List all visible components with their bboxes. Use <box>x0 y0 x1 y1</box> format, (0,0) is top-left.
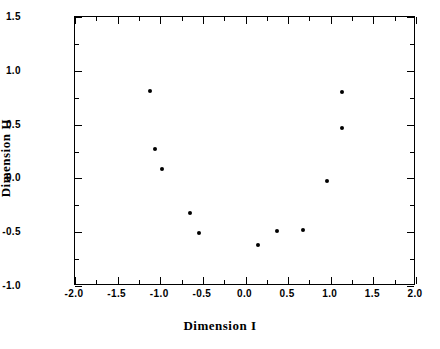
y-axis-tick-minor <box>75 44 79 45</box>
y-axis-tick-label: 0.5 <box>6 118 21 129</box>
data-point <box>160 167 164 171</box>
x-axis-tick-label: 2.0 <box>407 288 422 299</box>
x-axis-tick-minor <box>182 280 183 284</box>
x-axis-tick-minor <box>309 280 310 284</box>
y-axis-tick-label: 1.0 <box>6 64 21 75</box>
x-axis-tick-major <box>246 277 247 284</box>
x-axis-tick-major <box>75 277 76 284</box>
y-axis-tick-minor <box>75 205 79 206</box>
x-axis-tick-minor <box>224 280 225 284</box>
y-axis-title: Dimension II <box>0 119 14 198</box>
scatter-plot-figure: Dimension I Dimension II -2.0-1.5-1.0-0.… <box>0 0 440 349</box>
y-axis-tick-minor <box>410 152 414 153</box>
y-axis-tick-minor <box>410 44 414 45</box>
y-axis-tick-minor <box>410 98 414 99</box>
x-axis-tick-major <box>203 17 204 24</box>
y-axis-tick-major <box>407 232 414 233</box>
y-axis-tick-major <box>75 125 82 126</box>
x-axis-tick-major <box>331 17 332 24</box>
x-axis-tick-label: -0.5 <box>192 288 211 299</box>
y-axis-tick-major <box>75 286 82 287</box>
data-point <box>325 179 329 183</box>
x-axis-tick-minor <box>96 17 97 21</box>
x-axis-tick-major <box>75 17 76 24</box>
x-axis-tick-major <box>416 17 417 24</box>
y-axis-tick-major <box>407 125 414 126</box>
x-axis-tick-minor <box>309 17 310 21</box>
plot-area <box>74 16 415 285</box>
x-axis-tick-label: 0.5 <box>280 288 295 299</box>
y-axis-tick-minor <box>410 259 414 260</box>
x-axis-tick-label: -1.0 <box>150 288 169 299</box>
y-axis-tick-label: -0.5 <box>2 226 21 237</box>
y-axis-tick-minor <box>75 98 79 99</box>
y-axis-tick-label: -1.0 <box>2 280 21 291</box>
x-axis-tick-major <box>203 277 204 284</box>
x-axis-tick-label: 1.5 <box>365 288 380 299</box>
x-axis-tick-label: 0.0 <box>237 288 252 299</box>
y-axis-tick-minor <box>75 259 79 260</box>
data-point <box>256 243 260 247</box>
x-axis-tick-label: 1.0 <box>322 288 337 299</box>
x-axis-tick-minor <box>395 280 396 284</box>
x-axis-tick-major <box>246 17 247 24</box>
data-point <box>340 126 344 130</box>
data-point <box>340 90 344 94</box>
x-axis-tick-major <box>331 277 332 284</box>
y-axis-tick-major <box>407 178 414 179</box>
y-axis-tick-major <box>407 286 414 287</box>
x-axis-tick-major <box>416 277 417 284</box>
x-axis-tick-label: -1.5 <box>107 288 126 299</box>
x-axis-tick-minor <box>182 17 183 21</box>
y-axis-tick-label: 0.0 <box>6 172 21 183</box>
x-axis-tick-major <box>118 17 119 24</box>
y-axis-tick-minor <box>410 205 414 206</box>
x-axis-tick-minor <box>139 280 140 284</box>
y-axis-tick-major <box>75 71 82 72</box>
y-axis-tick-major <box>75 17 82 18</box>
x-axis-tick-major <box>373 17 374 24</box>
y-axis-tick-major <box>407 71 414 72</box>
data-point <box>148 89 152 93</box>
data-point <box>197 231 201 235</box>
data-point <box>301 228 305 232</box>
x-axis-tick-major <box>288 17 289 24</box>
y-axis-tick-minor <box>75 152 79 153</box>
x-axis-tick-minor <box>267 280 268 284</box>
x-axis-tick-minor <box>352 17 353 21</box>
x-axis-tick-major <box>373 277 374 284</box>
y-axis-tick-label: 1.5 <box>6 11 21 22</box>
x-axis-tick-major <box>288 277 289 284</box>
x-axis-title: Dimension I <box>0 318 440 334</box>
x-axis-tick-major <box>160 17 161 24</box>
x-axis-tick-minor <box>267 17 268 21</box>
data-point <box>188 211 192 215</box>
x-axis-tick-minor <box>96 280 97 284</box>
y-axis-tick-major <box>75 178 82 179</box>
x-axis-tick-major <box>118 277 119 284</box>
x-axis-tick-major <box>160 277 161 284</box>
x-axis-tick-minor <box>352 280 353 284</box>
x-axis-tick-minor <box>224 17 225 21</box>
y-axis-tick-major <box>75 232 82 233</box>
x-axis-tick-label: -2.0 <box>65 288 84 299</box>
data-point <box>153 147 157 151</box>
x-axis-tick-minor <box>395 17 396 21</box>
x-axis-tick-minor <box>139 17 140 21</box>
data-point <box>275 229 279 233</box>
y-axis-tick-major <box>407 17 414 18</box>
